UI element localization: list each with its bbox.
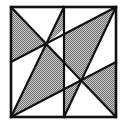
dissection-diagram: [0, 0, 122, 123]
diagram-canvas: [0, 0, 122, 123]
